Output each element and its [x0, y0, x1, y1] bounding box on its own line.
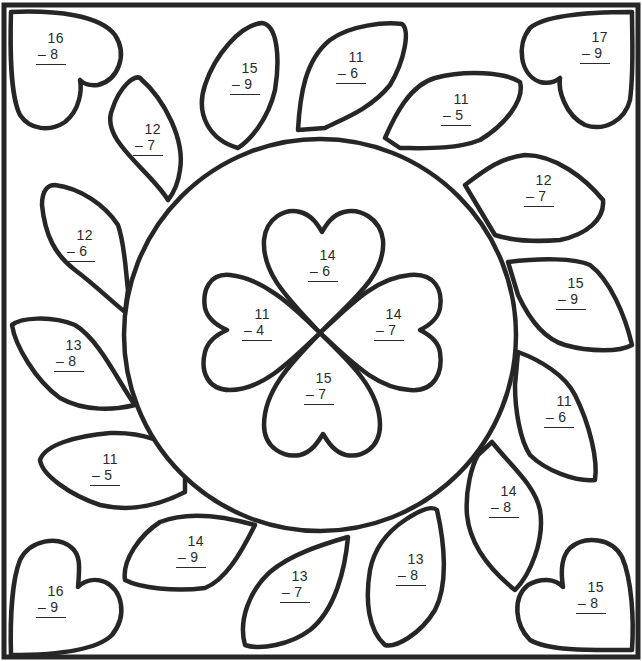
problem-petal-top-right-1: 11 –5	[433, 91, 477, 126]
minus-sign: –	[396, 567, 406, 583]
minuend: 14	[168, 533, 212, 549]
minuend: 15	[568, 579, 612, 595]
subtrahend: 7	[147, 137, 155, 153]
minus-sign: –	[524, 188, 534, 204]
minuend: 11	[328, 49, 372, 65]
problem-heart-bottom-right: 15 –8	[568, 579, 612, 614]
minuend: 14	[366, 306, 410, 322]
problem-petal-top-left-1: 12 –7	[125, 121, 169, 156]
minus-sign: –	[36, 46, 46, 62]
minuend: 12	[57, 227, 101, 243]
minus-sign: –	[374, 322, 384, 338]
subtrahend: 9	[570, 291, 578, 307]
minus-sign: –	[242, 322, 252, 338]
subtrahend: 6	[79, 243, 87, 259]
subtrahend: 9	[594, 45, 602, 61]
minuend: 13	[388, 551, 432, 567]
minuend: 15	[222, 60, 266, 76]
minus-sign: –	[230, 76, 240, 92]
math-coloring-worksheet: 16 –8 17 –9 16 –9 15 –8 12 –7 15 –9 11 –…	[0, 0, 642, 661]
problem-petal-left-1: 11 –5	[82, 451, 126, 486]
minuend: 14	[300, 247, 344, 263]
problem-heart-top-right: 17 –9	[572, 29, 616, 64]
minus-sign: –	[544, 409, 554, 425]
problem-petal-right-2: 15 –9	[548, 275, 592, 310]
subtrahend: 9	[50, 599, 58, 615]
problem-clover-right: 14 –7	[366, 306, 410, 341]
minus-sign: –	[441, 107, 451, 123]
problem-petal-bottom-left-1: 14 –9	[168, 533, 212, 568]
minuend: 16	[28, 30, 72, 46]
minus-sign: –	[133, 137, 143, 153]
subtrahend: 6	[322, 263, 330, 279]
subtrahend: 8	[503, 499, 511, 515]
problem-clover-top: 14 –6	[300, 247, 344, 282]
subtrahend: 5	[104, 467, 112, 483]
problem-heart-top-left: 16 –8	[28, 30, 72, 65]
problem-petal-right-3: 11 –6	[536, 393, 580, 428]
subtrahend: 9	[190, 549, 198, 565]
minus-sign: –	[489, 499, 499, 515]
subtrahend: 6	[350, 65, 358, 81]
worksheet-artwork	[0, 0, 642, 661]
minuend: 13	[46, 337, 90, 353]
minus-sign: –	[576, 595, 586, 611]
minus-sign: –	[304, 386, 314, 402]
minuend: 16	[28, 583, 72, 599]
minuend: 12	[125, 121, 169, 137]
subtrahend: 7	[388, 322, 396, 338]
minuend: 13	[272, 568, 316, 584]
minuend: 11	[234, 306, 278, 322]
subtrahend: 6	[558, 409, 566, 425]
minuend: 11	[82, 451, 126, 467]
subtrahend: 8	[590, 595, 598, 611]
minus-sign: –	[336, 65, 346, 81]
subtrahend: 4	[256, 322, 264, 338]
minus-sign: –	[176, 549, 186, 565]
minus-sign: –	[65, 243, 75, 259]
minuend: 15	[548, 275, 592, 291]
problem-heart-bottom-left: 16 –9	[28, 583, 72, 618]
minuend: 11	[536, 393, 580, 409]
minuend: 12	[516, 172, 560, 188]
minus-sign: –	[556, 291, 566, 307]
subtrahend: 7	[294, 584, 302, 600]
problem-clover-left: 11 –4	[234, 306, 278, 341]
minus-sign: –	[280, 584, 290, 600]
minuend: 15	[296, 370, 340, 386]
problem-petal-left-3: 12 –6	[57, 227, 101, 262]
minus-sign: –	[580, 45, 590, 61]
problem-petal-right-1: 12 –7	[516, 172, 560, 207]
problem-petal-top-2: 11 –6	[328, 49, 372, 84]
problem-petal-left-2: 13 –8	[46, 337, 90, 372]
problem-petal-bottom-2: 13 –7	[272, 568, 316, 603]
problem-clover-bottom: 15 –7	[296, 370, 340, 405]
minuend: 17	[572, 29, 616, 45]
minuend: 14	[481, 483, 525, 499]
subtrahend: 8	[50, 46, 58, 62]
minus-sign: –	[54, 353, 64, 369]
subtrahend: 7	[538, 188, 546, 204]
subtrahend: 5	[455, 107, 463, 123]
subtrahend: 8	[68, 353, 76, 369]
minus-sign: –	[36, 599, 46, 615]
minus-sign: –	[90, 467, 100, 483]
minuend: 11	[433, 91, 477, 107]
subtrahend: 8	[410, 567, 418, 583]
subtrahend: 7	[318, 386, 326, 402]
minus-sign: –	[308, 263, 318, 279]
problem-petal-bottom-right-1: 14 –8	[481, 483, 525, 518]
problem-petal-bottom-1: 13 –8	[388, 551, 432, 586]
subtrahend: 9	[244, 76, 252, 92]
problem-petal-top-1: 15 –9	[222, 60, 266, 95]
